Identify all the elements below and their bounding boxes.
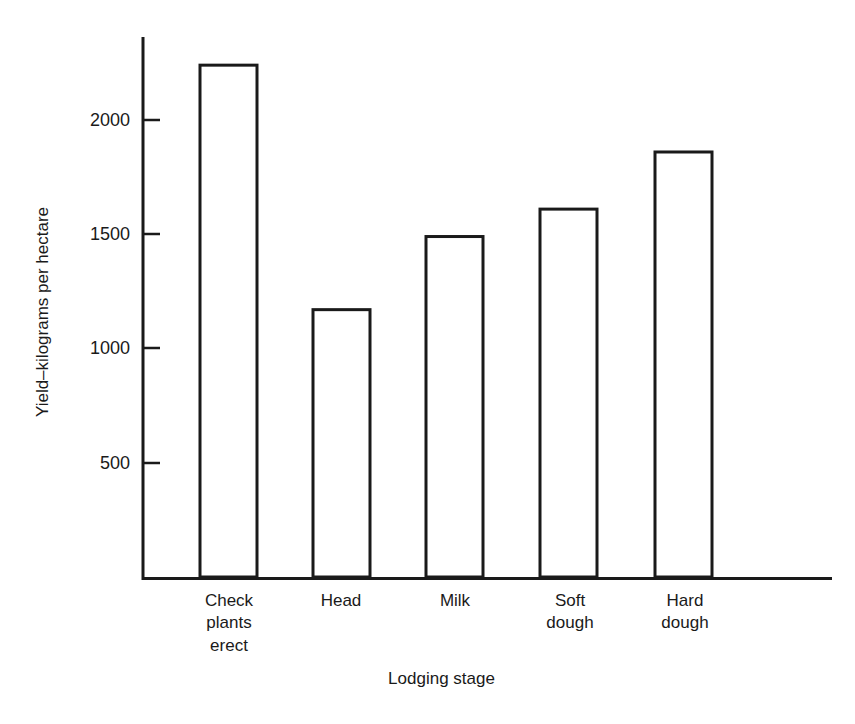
- bar-head: [313, 310, 370, 577]
- x-category-label-hard-dough: Hard dough: [627, 590, 743, 635]
- x-category-label-milk: Milk: [397, 590, 513, 612]
- x-axis-title: Lodging stage: [0, 669, 855, 689]
- bar-milk: [426, 237, 483, 577]
- bar-soft-dough: [540, 209, 597, 577]
- bar-hard-dough: [655, 152, 712, 577]
- x-category-label-head: Head: [283, 590, 399, 612]
- bar-check-plants-erect: [200, 65, 257, 577]
- bar-chart-figure: Yield–kilograms per hectare 2000 1500 10…: [0, 0, 855, 724]
- x-category-label-check-plants-erect: Check plants erect: [171, 590, 287, 657]
- bar-series: [200, 65, 712, 577]
- x-axis-title-text: Lodging stage: [388, 669, 495, 689]
- x-category-label-soft-dough: Soft dough: [512, 590, 628, 635]
